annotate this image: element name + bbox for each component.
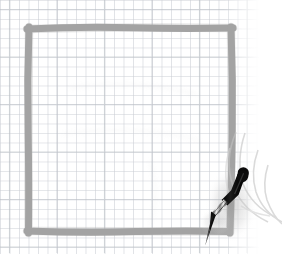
screenshot-canvas: Hand-drawn square on graph paper with st…: [0, 0, 282, 259]
drawing-surface: [0, 0, 282, 259]
